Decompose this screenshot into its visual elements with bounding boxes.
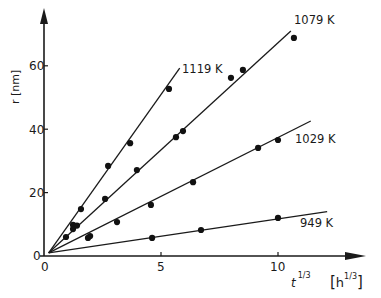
data-point	[275, 215, 281, 221]
x-tick-label: 10	[270, 260, 285, 274]
chart-container: 05100204060 1119 K 1079 K 1029 K 949 K r…	[0, 0, 381, 298]
y-tick-label: 40	[29, 123, 44, 137]
data-point	[63, 234, 69, 240]
y-tick-label: 0	[33, 249, 41, 263]
y-tick-label: 60	[29, 59, 44, 73]
fit-line	[49, 68, 180, 253]
data-point	[87, 233, 93, 239]
data-point	[148, 202, 154, 208]
axis-titles: r [nm] t1/3 [h1/3]	[9, 70, 363, 291]
x-tick-label: 5	[157, 260, 165, 274]
data-point	[291, 35, 297, 41]
data-point	[166, 86, 172, 92]
data-point	[102, 196, 108, 202]
data-point	[228, 75, 234, 81]
x-axis-unit-close-bracket: ]	[357, 273, 363, 291]
data-point	[134, 167, 140, 173]
data-point	[127, 140, 133, 146]
data-point	[149, 235, 155, 241]
data-point	[255, 145, 261, 151]
fit-line	[49, 31, 291, 253]
data-point	[74, 222, 80, 228]
data-point	[275, 137, 281, 143]
series-label-1079k: 1079 K	[294, 13, 335, 27]
y-axis-title: r [nm]	[9, 70, 22, 104]
series-label-1119k: 1119 K	[182, 62, 223, 76]
x-axis-unit-exp: 1/3	[344, 272, 357, 281]
data-point	[78, 206, 84, 212]
x-axis-unit: [h1/3]	[330, 272, 363, 291]
data-point	[173, 134, 179, 140]
x-axis-title: t1/3	[291, 271, 311, 290]
data-point	[240, 67, 246, 73]
data-point	[190, 179, 196, 185]
series-labels: 1119 K 1079 K 1029 K 949 K	[182, 13, 336, 230]
x-axis-unit-base: h	[336, 275, 344, 290]
data-point	[114, 219, 120, 225]
y-axis-arrow-icon	[40, 8, 48, 24]
ticks: 05100204060	[29, 59, 285, 274]
x-axis-arrow-icon	[345, 252, 366, 260]
data-point	[180, 128, 186, 134]
x-tick-label: 0	[41, 260, 49, 274]
data-points	[63, 35, 297, 241]
x-axis-title-exp: 1/3	[298, 271, 311, 280]
series-label-1029k: 1029 K	[295, 132, 336, 146]
series-label-949k: 949 K	[300, 216, 334, 230]
data-point	[198, 227, 204, 233]
y-tick-label: 20	[29, 186, 44, 200]
data-point	[105, 163, 111, 169]
x-axis-title-base: t	[291, 276, 297, 290]
chart-plot: 05100204060 1119 K 1079 K 1029 K 949 K r…	[0, 0, 381, 298]
